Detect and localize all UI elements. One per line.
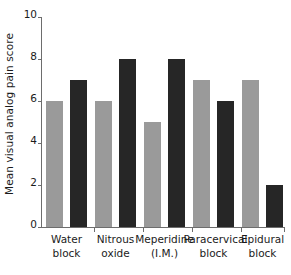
y-axis-title: Mean visual analog pain score xyxy=(0,0,18,228)
x-axis-label-line2: block xyxy=(233,247,291,261)
y-axis-title-text: Mean visual analog pain score xyxy=(3,33,15,195)
x-axis-group-separator xyxy=(94,228,95,232)
x-axis-label: Epiduralblock xyxy=(233,233,291,260)
bar xyxy=(242,80,259,227)
x-axis-label-line1: Epidural xyxy=(233,233,291,247)
y-axis-tick-label: 8 xyxy=(30,51,37,62)
bar xyxy=(193,80,210,227)
y-axis-tick: 6 xyxy=(20,101,42,102)
x-axis-group-separator xyxy=(241,228,242,232)
bar-group xyxy=(46,17,87,227)
bar xyxy=(144,122,161,227)
plot-area xyxy=(42,17,285,227)
bar xyxy=(70,80,87,227)
x-axis-labels: WaterblockNitrousoxideMeperidine(I.M.)Pa… xyxy=(33,233,288,267)
x-axis-group-separator xyxy=(143,228,144,232)
bar-chart: Mean visual analog pain score 0246810 Wa… xyxy=(0,0,290,275)
y-axis-tick: 10 xyxy=(20,17,42,18)
bar-group xyxy=(144,17,185,227)
y-axis-tick: 8 xyxy=(20,59,42,60)
bar xyxy=(119,59,136,227)
bar xyxy=(95,101,112,227)
y-axis-tick: 2 xyxy=(20,185,42,186)
y-axis-tick-label: 4 xyxy=(30,135,37,146)
bar xyxy=(217,101,234,227)
y-axis-tick-label: 0 xyxy=(30,219,37,230)
y-axis-tick: 0 xyxy=(20,227,42,228)
bar-group xyxy=(193,17,234,227)
y-axis-tick-label: 2 xyxy=(30,177,37,188)
bar-group xyxy=(95,17,136,227)
bar-group xyxy=(242,17,283,227)
x-axis-end-tick xyxy=(284,228,285,232)
x-axis-line xyxy=(41,227,285,228)
y-axis-tick-label: 10 xyxy=(24,9,37,20)
bar xyxy=(46,101,63,227)
y-axis: 0246810 xyxy=(20,12,42,232)
x-axis-group-separator xyxy=(192,228,193,232)
y-axis-tick-label: 6 xyxy=(30,93,37,104)
y-axis-tick: 4 xyxy=(20,143,42,144)
bar xyxy=(266,185,283,227)
bar xyxy=(168,59,185,227)
